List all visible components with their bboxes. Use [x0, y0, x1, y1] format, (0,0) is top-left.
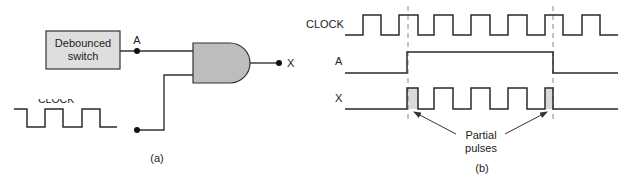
output-x-dot — [276, 60, 282, 66]
and-gate-enable-diagram: Debounced switch A X CLOCK (a) CLOCK A X — [0, 0, 627, 184]
wire-clock — [137, 75, 193, 130]
signal-label-a: A — [335, 55, 343, 67]
clock-input-dot — [134, 127, 140, 133]
annotation-line1: Partial — [465, 129, 496, 141]
partial-pulse-left — [407, 88, 418, 109]
caption-b: (b) — [475, 162, 488, 174]
clock-label-mask — [36, 92, 86, 99]
output-x-label: X — [287, 57, 295, 69]
and-gate-icon — [193, 43, 250, 83]
caption-a: (a) — [150, 152, 163, 164]
timing-figure-b: CLOCK A X Partial pulses (b) — [306, 6, 618, 174]
arrow-right — [505, 112, 547, 134]
clock-waveform-a — [14, 109, 117, 127]
node-a-label: A — [133, 34, 141, 46]
a-waveform — [345, 52, 618, 73]
partial-pulse-right — [545, 88, 553, 109]
circuit-figure-a: Debounced switch A X CLOCK (a) — [14, 31, 295, 164]
clock-waveform-b — [345, 15, 618, 35]
switch-label-line2: switch — [68, 50, 99, 62]
arrow-left — [414, 112, 456, 134]
switch-label-line1: Debounced — [55, 37, 111, 49]
annotation-line2: pulses — [465, 142, 497, 154]
signal-label-clock: CLOCK — [306, 18, 345, 30]
signal-label-x: X — [335, 92, 343, 104]
node-a-dot — [134, 48, 140, 54]
x-waveform — [345, 88, 618, 109]
